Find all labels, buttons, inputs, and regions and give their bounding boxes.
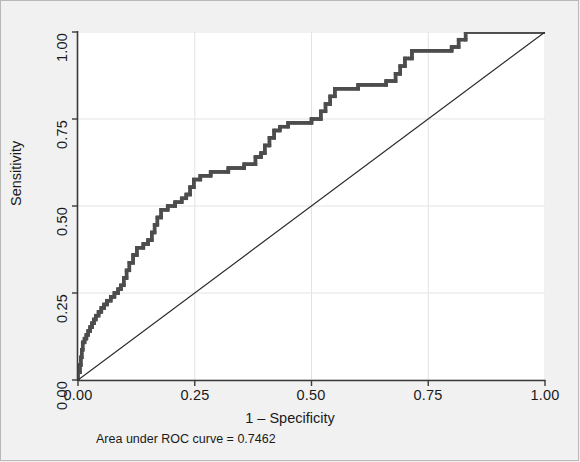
plot-area bbox=[78, 32, 545, 380]
y-tick-label-3: 0.75 bbox=[54, 120, 70, 160]
roc-curve-figure: 0.00 0.25 0.50 0.75 1.00 0.00 0.25 0.50 … bbox=[0, 0, 580, 462]
y-axis-title: Sensitivity bbox=[8, 141, 24, 206]
y-tick-label-2: 0.50 bbox=[54, 207, 70, 247]
auc-note: Area under ROC curve = 0.7462 bbox=[96, 432, 276, 446]
x-tick-label-3: 0.75 bbox=[398, 387, 458, 403]
y-tick-label-1: 0.25 bbox=[54, 294, 70, 334]
roc-plot-svg bbox=[78, 32, 545, 380]
x-tick-label-1: 0.25 bbox=[165, 387, 225, 403]
y-tick-label-4: 1.00 bbox=[54, 33, 70, 73]
x-axis-title: 1 – Specificity bbox=[0, 410, 580, 426]
x-tick-label-0: 0.00 bbox=[48, 387, 108, 403]
x-tick-label-4: 1.00 bbox=[515, 387, 575, 403]
x-tick-label-2: 0.50 bbox=[281, 387, 341, 403]
